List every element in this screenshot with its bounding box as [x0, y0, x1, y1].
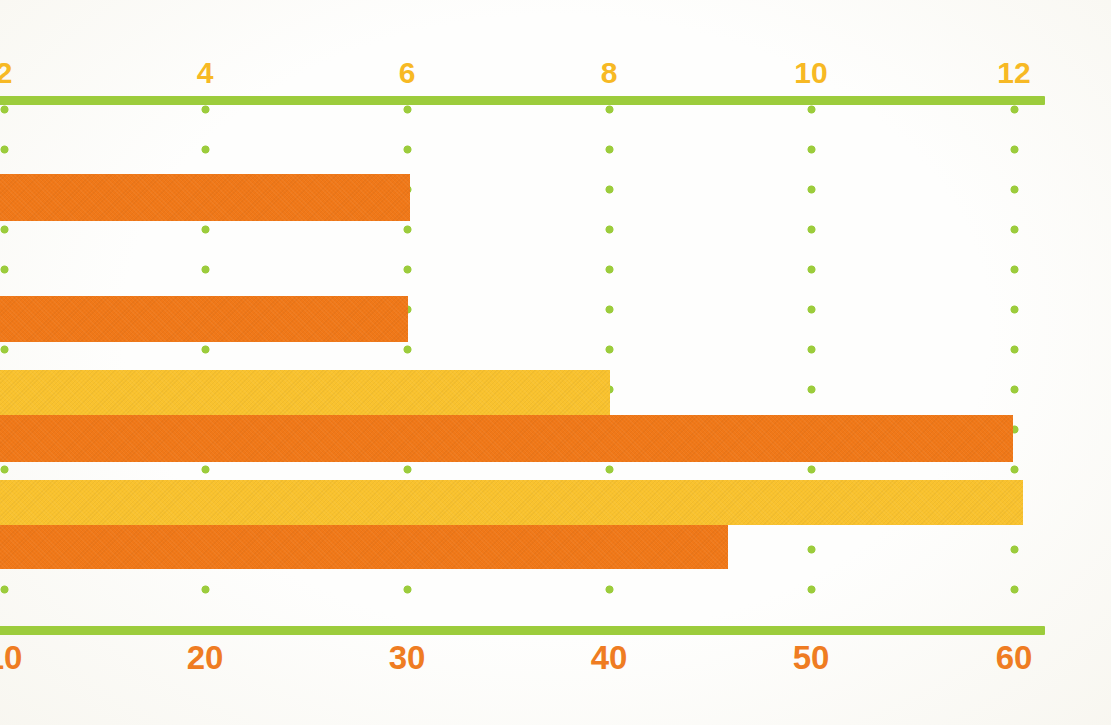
bottom-tick-label-60: 60 [964, 641, 1064, 674]
bottom-tick-label-40: 40 [559, 641, 659, 674]
gridline-12 [1010, 105, 1019, 623]
bottom-tick-label-20: 20 [155, 641, 255, 674]
bar-5-yellow[interactable] [0, 480, 1023, 525]
bar-3-yellow[interactable] [0, 370, 610, 415]
bottom-tick-label-50: 50 [761, 641, 861, 674]
top-tick-label-2: 2 [0, 58, 49, 88]
bottom-tick-label-30: 30 [357, 641, 457, 674]
bar-chart: 24681012 102030405060 [0, 0, 1111, 725]
top-tick-label-4: 4 [160, 58, 250, 88]
bottom-axis-line [0, 626, 1045, 635]
paper-texture [0, 0, 1111, 725]
gridline-10 [807, 105, 816, 623]
bar-2-orange[interactable] [0, 296, 408, 342]
top-tick-label-12: 12 [969, 58, 1059, 88]
bottom-tick-label-10: 10 [0, 641, 54, 674]
top-tick-label-10: 10 [766, 58, 856, 88]
bar-4-orange[interactable] [0, 415, 1013, 462]
bar-1-orange[interactable] [0, 174, 410, 221]
top-tick-label-6: 6 [362, 58, 452, 88]
top-tick-label-8: 8 [564, 58, 654, 88]
bar-6-orange[interactable] [0, 525, 728, 569]
top-axis-line [0, 96, 1045, 105]
